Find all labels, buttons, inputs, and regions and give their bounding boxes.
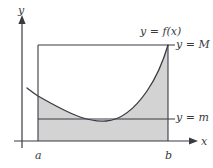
y-axis-label: y [18, 5, 24, 16]
line-label-y-equals-M: y = M [176, 39, 210, 50]
curve-label-y-equals-f-of-x: y = f(x) [140, 26, 181, 37]
shaded-area-under-curve [38, 45, 168, 141]
y-axis [18, 15, 25, 148]
line-label-y-equals-m: y = m [176, 112, 209, 123]
x-tick-label-b: b [165, 150, 172, 161]
x-axis-arrowhead [189, 137, 198, 144]
x-axis-label: x [201, 136, 207, 147]
integral-bounds-figure: y x a b y = f(x) y = M y = m [0, 0, 213, 168]
x-tick-label-a: a [35, 150, 42, 161]
